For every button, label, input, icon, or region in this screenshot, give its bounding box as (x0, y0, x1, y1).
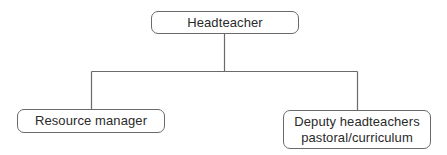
node-headteacher-label: Headteacher (187, 15, 263, 31)
node-resource-manager-label: Resource manager (35, 113, 147, 129)
node-deputy-headteachers: Deputy headteachers pastoral/curriculum (283, 110, 431, 149)
node-headteacher: Headteacher (151, 11, 299, 34)
node-deputy-headteachers-line1: Deputy headteachers (294, 114, 419, 130)
node-resource-manager: Resource manager (17, 109, 165, 133)
node-deputy-headteachers-line2: pastoral/curriculum (301, 130, 413, 146)
org-chart: Headteacher Resource manager Deputy head… (0, 0, 447, 155)
